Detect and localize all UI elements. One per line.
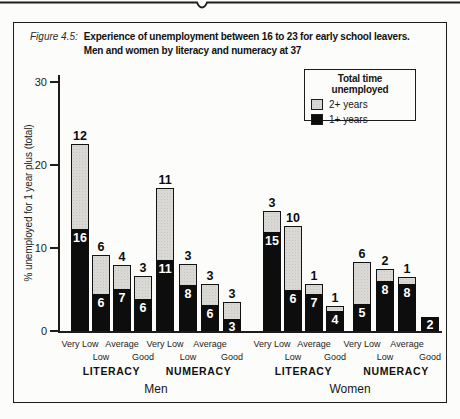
bar-value-inside: 8 bbox=[180, 288, 196, 300]
bar-value-inside: 7 bbox=[306, 297, 322, 309]
bar-value-inside: 8 bbox=[399, 287, 415, 299]
bar-value-inside: 6 bbox=[285, 293, 301, 305]
x-category-label: Low bbox=[180, 352, 197, 362]
legend: Total time unemployed 2+ years 1+ years bbox=[304, 69, 416, 121]
bar-value-above: 12 bbox=[73, 129, 87, 143]
bar-men-literacy-good: 6 bbox=[134, 276, 152, 331]
bar-value-above: 10 bbox=[286, 211, 300, 225]
x-category-label: Average bbox=[193, 339, 226, 349]
figure-box: Figure 4.5: Experience of unemployment b… bbox=[13, 22, 447, 403]
x-category-label: Very Low bbox=[61, 339, 98, 349]
page-top-rule bbox=[0, 0, 460, 10]
legend-item-2plus-years: 2+ years bbox=[311, 97, 409, 112]
bar-value-inside: 15 bbox=[264, 235, 280, 247]
bar-value-above: 1 bbox=[332, 291, 339, 305]
group-label-literacy: LITERACY bbox=[275, 365, 332, 377]
bar-value-inside: 3 bbox=[224, 321, 240, 333]
bar-value-inside: 11 bbox=[157, 263, 173, 275]
x-category-label: Very Low bbox=[146, 339, 183, 349]
bar-value-above: 6 bbox=[98, 240, 105, 254]
x-category-label: Average bbox=[390, 339, 423, 349]
y-tick-mark bbox=[50, 164, 58, 165]
bar-men-literacy-low: 6 bbox=[92, 255, 110, 331]
y-axis-title: % unemployed for 1 year plus (total) bbox=[23, 124, 34, 281]
bar-women-numeracy-average: 8 bbox=[398, 277, 416, 331]
bar-women-literacy-good: 4 bbox=[326, 306, 344, 331]
bar-value-above: 3 bbox=[269, 196, 276, 210]
bar-value-inside: 2 bbox=[422, 319, 438, 331]
y-tick-label: 0 bbox=[19, 325, 47, 337]
legend-item-1plus-years: 1+ years bbox=[311, 112, 409, 127]
x-category-label: Average bbox=[105, 339, 138, 349]
bar-men-numeracy-very-low: 11 bbox=[156, 188, 174, 331]
scanned-page: Figure 4.5: Experience of unemployment b… bbox=[0, 0, 460, 419]
bar-value-inside: 7 bbox=[114, 292, 130, 304]
legend-label-2plus-years: 2+ years bbox=[329, 99, 368, 110]
bar-value-above: 2 bbox=[382, 254, 389, 268]
bar-value-inside: 6 bbox=[135, 302, 151, 314]
group-label-numeracy: NUMERACY bbox=[166, 365, 231, 377]
x-category-label: Low bbox=[377, 352, 394, 362]
bar-women-numeracy-good: 2 bbox=[421, 317, 439, 331]
bar-value-inside: 6 bbox=[93, 297, 109, 309]
y-axis-line bbox=[58, 75, 60, 332]
bar-value-inside: 4 bbox=[327, 314, 343, 326]
bar-value-above: 6 bbox=[359, 247, 366, 261]
bar-women-numeracy-low: 8 bbox=[376, 269, 394, 331]
x-category-label: Good bbox=[132, 352, 154, 362]
legend-label-1plus-years: 1+ years bbox=[329, 114, 368, 125]
y-tick-label: 10 bbox=[19, 242, 47, 254]
section-label-women: Women bbox=[329, 382, 370, 396]
bar-men-numeracy-average: 6 bbox=[201, 284, 219, 331]
bar-men-literacy-very-low: 16 bbox=[71, 144, 89, 331]
bar-value-above: 4 bbox=[119, 250, 126, 264]
y-tick-label: 30 bbox=[19, 76, 47, 88]
y-tick-mark bbox=[50, 247, 58, 248]
bar-value-above: 3 bbox=[229, 287, 236, 301]
bar-men-numeracy-good: 3 bbox=[223, 302, 241, 331]
x-axis-line bbox=[58, 331, 442, 333]
legend-swatch-2plus-years-icon bbox=[311, 99, 323, 110]
bar-women-numeracy-very-low: 5 bbox=[353, 262, 371, 331]
bar-men-numeracy-low: 8 bbox=[179, 264, 197, 331]
y-tick-mark bbox=[50, 81, 58, 82]
bar-value-above: 3 bbox=[207, 269, 214, 283]
bar-value-above: 3 bbox=[140, 261, 147, 275]
bar-men-literacy-average: 7 bbox=[113, 265, 131, 331]
bar-value-above: 1 bbox=[404, 262, 411, 276]
section-label-men: Men bbox=[144, 382, 167, 396]
legend-swatch-1plus-years-icon bbox=[311, 114, 323, 125]
group-label-numeracy: NUMERACY bbox=[363, 365, 428, 377]
bar-women-literacy-low: 6 bbox=[284, 226, 302, 331]
bar-value-inside: 8 bbox=[377, 284, 393, 296]
x-category-label: Low bbox=[93, 352, 110, 362]
bar-value-above: 11 bbox=[158, 173, 171, 187]
bar-value-inside: 6 bbox=[202, 308, 218, 320]
bar-value-inside: 16 bbox=[72, 232, 88, 244]
x-category-label: Very Low bbox=[253, 339, 290, 349]
y-tick-mark bbox=[50, 330, 58, 331]
x-category-label: Good bbox=[324, 352, 346, 362]
legend-title: Total time unemployed bbox=[311, 73, 409, 95]
x-category-label: Low bbox=[285, 352, 302, 362]
x-category-label: Good bbox=[221, 352, 243, 362]
bar-women-literacy-average: 7 bbox=[305, 284, 323, 331]
bar-value-above: 1 bbox=[311, 269, 318, 283]
y-tick-label: 20 bbox=[19, 159, 47, 171]
group-label-literacy: LITERACY bbox=[83, 365, 140, 377]
bar-value-above: 3 bbox=[185, 249, 192, 263]
bar-value-inside: 5 bbox=[354, 307, 370, 319]
x-category-label: Good bbox=[419, 352, 441, 362]
bar-women-literacy-very-low: 15 bbox=[263, 211, 281, 331]
x-category-label: Average bbox=[297, 339, 330, 349]
x-category-label: Very Low bbox=[343, 339, 380, 349]
